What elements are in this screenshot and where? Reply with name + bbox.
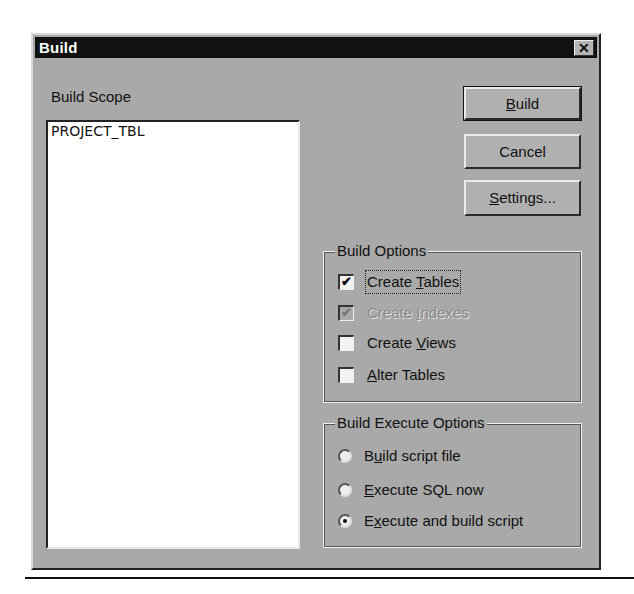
build-button[interactable]: Build xyxy=(464,87,581,120)
build-dialog: Build ✕ Build Scope PROJECT_TBL Build Ca… xyxy=(31,33,601,570)
close-icon: ✕ xyxy=(578,40,590,56)
create-tables-label: Create Tables xyxy=(367,272,459,292)
build-execute-options-group: Build Execute Options Build script file … xyxy=(323,423,582,548)
execute-and-build-script-label: Execute and build script xyxy=(364,511,523,531)
alter-tables-label: Alter Tables xyxy=(367,365,445,385)
checkbox-checked-icon[interactable]: ✔ xyxy=(338,274,354,290)
execute-sql-now-label: Execute SQL now xyxy=(364,480,484,500)
list-item[interactable]: PROJECT_TBL xyxy=(51,123,144,139)
build-accel: B xyxy=(506,95,516,112)
build-options-group: Build Options ✔ Create Tables ✔ Create I… xyxy=(323,251,582,403)
close-button[interactable]: ✕ xyxy=(574,40,594,56)
page-divider xyxy=(25,577,634,579)
create-indexes-label: Create Indexes xyxy=(367,303,469,323)
radio-unselected-icon[interactable] xyxy=(338,483,352,497)
build-script-file-label: Build script file xyxy=(364,446,461,466)
build-scope-label: Build Scope xyxy=(51,88,131,105)
checkbox-unchecked-icon[interactable] xyxy=(338,367,354,383)
dialog-title: Build xyxy=(39,39,78,56)
build-execute-options-legend: Build Execute Options xyxy=(335,414,487,431)
radio-selected-icon[interactable] xyxy=(338,514,352,528)
create-views-label: Create Views xyxy=(367,333,456,353)
build-options-legend: Build Options xyxy=(335,242,428,259)
cancel-button[interactable]: Cancel xyxy=(464,134,581,169)
settings-accel: S xyxy=(489,189,499,206)
settings-button[interactable]: Settings... xyxy=(464,180,581,216)
settings-label-post: ettings... xyxy=(499,189,556,206)
title-bar[interactable]: Build ✕ xyxy=(35,37,597,58)
checkbox-unchecked-icon[interactable] xyxy=(338,335,354,351)
radio-unselected-icon[interactable] xyxy=(338,449,352,463)
build-label-post: uild xyxy=(516,95,539,112)
checkbox-checked-disabled-icon: ✔ xyxy=(338,305,354,321)
build-scope-list[interactable]: PROJECT_TBL xyxy=(46,120,300,549)
